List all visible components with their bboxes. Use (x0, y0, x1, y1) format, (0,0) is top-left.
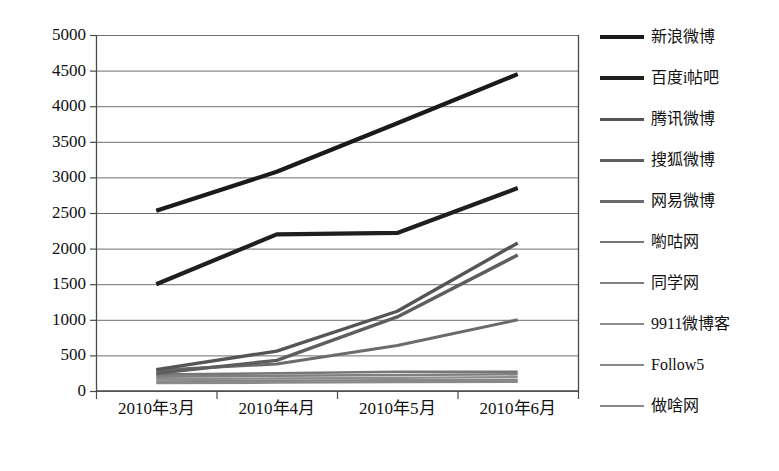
x-axis-tick-label: 2010年4月 (212, 398, 342, 420)
chart-legend: 新浪微博百度i帖吧腾讯微博搜狐微博网易微博喲咕网同学网9911微博客Follow… (600, 26, 779, 446)
x-axis-tick-label: 2010年6月 (453, 398, 583, 420)
legend-item[interactable]: 9911微博客 (600, 313, 779, 335)
plot-area (0, 0, 600, 440)
legend-swatch-line-icon (600, 200, 644, 203)
legend-swatch-line-icon (600, 118, 644, 121)
legend-item[interactable]: 新浪微博 (600, 26, 779, 48)
legend-swatch-line-icon (600, 159, 644, 162)
legend-item-label: 搜狐微博 (651, 151, 715, 169)
legend-swatch-line-icon (600, 241, 644, 243)
series-lines (156, 74, 518, 383)
legend-item-label: Follow5 (651, 356, 704, 374)
legend-item[interactable]: 网易微博 (600, 190, 779, 212)
x-axis-tick-labels: 2010年3月2010年4月2010年5月2010年6月 (96, 398, 586, 428)
legend-swatch-line-icon (600, 76, 644, 80)
x-axis-tick-label: 2010年3月 (91, 398, 221, 420)
legend-swatch-line-icon (600, 323, 644, 325)
legend-item[interactable]: Follow5 (600, 354, 779, 376)
legend-swatch-line-icon (600, 35, 644, 39)
series-line (156, 380, 518, 381)
line-chart: 5000450040003500300025002000150010005000… (0, 0, 779, 471)
y-axis-tick-marks (90, 36, 96, 392)
legend-item[interactable]: 搜狐微博 (600, 149, 779, 171)
legend-item-label: 百度i帖吧 (651, 69, 719, 87)
plot-svg (0, 0, 600, 440)
legend-item[interactable]: 做啥网 (600, 395, 779, 417)
legend-item-label: 网易微博 (651, 192, 715, 210)
legend-item[interactable]: 腾讯微博 (600, 108, 779, 130)
series-line (156, 188, 518, 284)
legend-item-label: 同学网 (651, 274, 699, 292)
x-axis-tick-label: 2010年5月 (332, 398, 462, 420)
legend-item-label: 9911微博客 (651, 315, 730, 333)
legend-item[interactable]: 同学网 (600, 272, 779, 294)
legend-item[interactable]: 喲咕网 (600, 231, 779, 253)
legend-item-label: 喲咕网 (651, 233, 699, 251)
legend-swatch-line-icon (600, 405, 644, 407)
legend-item-label: 腾讯微博 (651, 110, 715, 128)
legend-swatch-line-icon (600, 282, 644, 284)
legend-item-label: 做啥网 (651, 397, 699, 415)
legend-item[interactable]: 百度i帖吧 (600, 67, 779, 89)
legend-item-label: 新浪微博 (651, 28, 715, 46)
legend-swatch-line-icon (600, 364, 644, 366)
